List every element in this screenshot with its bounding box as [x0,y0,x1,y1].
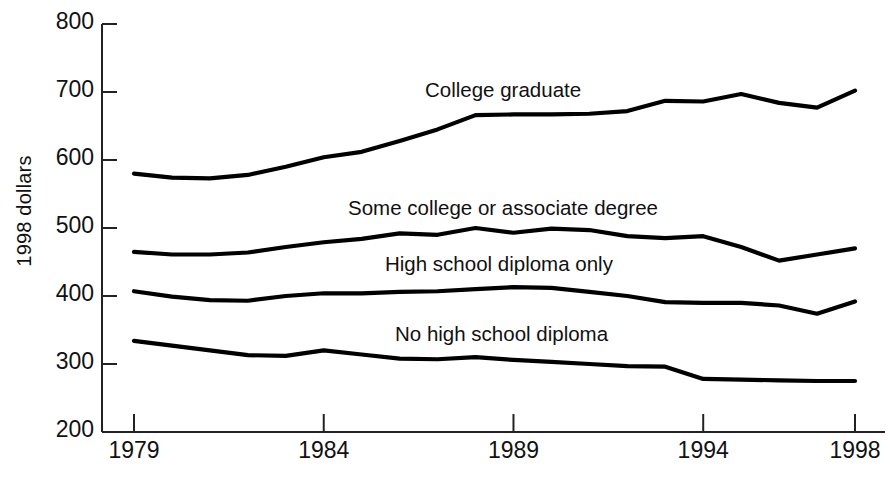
x-axis-ticks [134,414,855,432]
series-label-high-school: High school diploma only [385,252,613,276]
series-label-some-college: Some college or associate degree [348,196,658,220]
y-axis-tick-label: 700 [18,76,94,103]
y-axis-tick-label: 600 [18,144,94,171]
chart-container: 1998 dollars 800700600500400300200 19791… [0,0,893,480]
y-axis-tick-label: 500 [18,212,94,239]
x-axis-tick-label: 1998 [800,437,893,464]
y-axis-tick-label: 300 [18,348,94,375]
x-axis-tick-label: 1994 [648,437,758,464]
x-axis-tick-label: 1989 [458,437,568,464]
series-line-2 [134,287,855,314]
y-axis-tick-label: 400 [18,280,94,307]
y-axis-ticks [102,24,117,432]
x-axis-tick-label: 1984 [269,437,379,464]
series-label-college-graduate: College graduate [425,78,581,102]
y-axis-tick-label: 800 [18,8,94,35]
series-line-0 [134,91,855,179]
x-axis-tick-label: 1979 [79,437,189,464]
series-line-3 [134,341,855,381]
line-chart-plot [0,0,893,480]
series-label-no-high-school: No high school diploma [395,322,608,346]
